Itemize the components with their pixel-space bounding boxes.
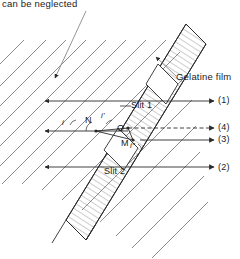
note-text: can be neglected	[2, 0, 78, 9]
angle-i-lower-label: i″	[130, 142, 135, 150]
ray-3-label: (3)	[218, 135, 230, 144]
ray-4-label: (4)	[218, 123, 230, 132]
slit-1-label: Slit 1	[131, 101, 152, 110]
optics-diagram-figure: can be neglected Gelatine film Slit 1 Sl…	[0, 0, 240, 259]
node-N	[94, 129, 97, 132]
slit-2-label: Slit 2	[104, 167, 125, 176]
node-O	[126, 126, 129, 129]
point-n-label: N	[85, 116, 92, 125]
point-o-label: O	[117, 124, 124, 133]
angle-i-left-label: i	[62, 119, 64, 127]
gelatine-film-band	[66, 24, 206, 240]
angle-i-upper-label: i'	[101, 112, 105, 120]
ray-2-label: (2)	[218, 163, 230, 172]
point-m-label: M	[121, 139, 129, 148]
gelatine-film-label: Gelatine film	[176, 72, 231, 82]
ray-1-label: (1)	[218, 96, 230, 105]
